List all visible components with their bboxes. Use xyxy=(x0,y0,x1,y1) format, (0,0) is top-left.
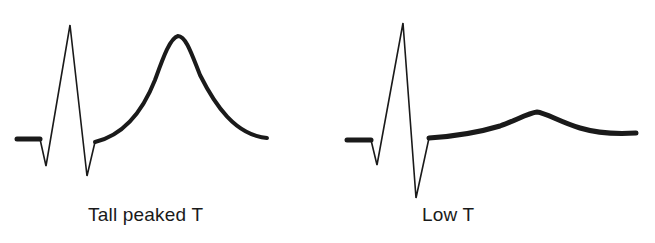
qrs-complex xyxy=(40,25,95,176)
panel-low-t xyxy=(347,23,636,198)
panel-tall-peaked-t xyxy=(17,25,267,176)
t-wave-low xyxy=(429,112,636,138)
t-wave-tall-peaked xyxy=(95,36,267,142)
qrs-complex xyxy=(371,23,429,198)
label-low-t: Low T xyxy=(422,204,474,226)
label-tall-peaked-t: Tall peaked T xyxy=(88,204,203,226)
